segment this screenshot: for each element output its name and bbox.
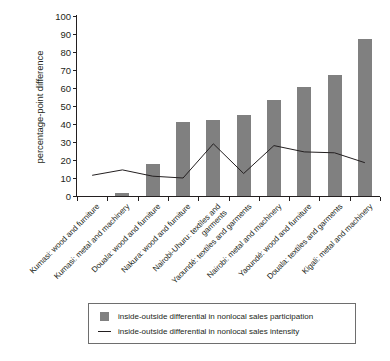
- x-axis-label: Nairobi: metal and machinery: [171, 202, 283, 314]
- x-axis-label: Kumasi: metal and machinery: [19, 202, 131, 314]
- x-axis-label: Douala: textiles and garments: [231, 202, 343, 314]
- legend-line-swatch-icon: [98, 331, 111, 332]
- legend-bar-swatch-icon: [100, 312, 109, 321]
- chart-legend: inside-outside differential in nonlocal …: [88, 303, 356, 344]
- y-tick-label: 30: [60, 137, 71, 148]
- x-axis-label: Yaoundé: textiles and garments: [141, 202, 253, 314]
- x-axis-label: Kumasi: wood and furniture: [0, 202, 102, 314]
- legend-item-participation: inside-outside differential in nonlocal …: [96, 309, 348, 324]
- legend-label-participation: inside-outside differential in nonlocal …: [118, 312, 313, 321]
- x-axis-label: Kigali: metal and machinery: [262, 202, 374, 314]
- y-tick-label: 50: [60, 101, 71, 112]
- y-tick-label: 10: [60, 173, 71, 184]
- y-tick-label: 20: [60, 155, 71, 166]
- legend-item-intensity: inside-outside differential in nonlocal …: [96, 324, 348, 339]
- y-tick-label: 90: [60, 29, 71, 40]
- x-axis-labels: Kumasi: wood and furnitureKumasi: metal …: [0, 200, 390, 295]
- legend-label-intensity: inside-outside differential in nonlocal …: [118, 327, 299, 336]
- chart-figure: percentage-point difference 010203040506…: [0, 0, 390, 361]
- y-tick-label: 80: [60, 47, 71, 58]
- y-tick-label: 70: [60, 65, 71, 76]
- line-series: [77, 16, 380, 196]
- y-tick-label: 60: [60, 83, 71, 94]
- plot-area: [77, 16, 380, 196]
- y-tick-label: 40: [60, 119, 71, 130]
- trend-line: [92, 144, 365, 178]
- y-axis-ticks: 0102030405060708090100: [0, 15, 77, 197]
- y-tick-label: 100: [55, 11, 71, 22]
